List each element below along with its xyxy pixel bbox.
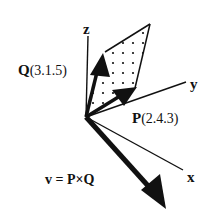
point-p-coords: (2.4.3) <box>141 111 178 126</box>
x-axis-label: x <box>187 170 195 185</box>
point-p-name: P <box>132 110 141 126</box>
point-p-label: P(2.4.3) <box>132 111 179 126</box>
point-q-label: Q(3.1.5) <box>18 63 67 78</box>
z-axis-label: z <box>83 22 90 37</box>
cross-product-diagram <box>0 0 214 219</box>
point-q-coords: (3.1.5) <box>30 63 67 78</box>
vector-v-arrow <box>86 117 166 209</box>
y-axis-label: y <box>190 77 198 92</box>
point-q-name: Q <box>18 62 30 78</box>
cross-product-equation: v = P×Q <box>45 173 94 187</box>
